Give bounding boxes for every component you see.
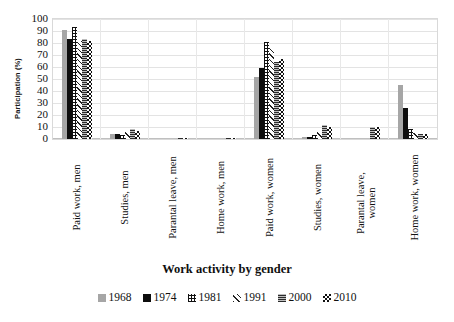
legend-item-2000[interactable]: 2000 (278, 292, 312, 303)
legend-label: 1981 (199, 292, 222, 303)
legend-swatch-icon (143, 294, 151, 302)
x-axis-label-line1: Paid work, men (71, 164, 82, 230)
x-axis-label-line2: women (366, 153, 377, 253)
plot-area (52, 18, 438, 140)
legend-item-1981[interactable]: 1981 (188, 292, 222, 303)
bar-cluster (62, 19, 92, 139)
x-axis-label-line1: Parantal leave, (355, 172, 366, 234)
legend-label: 2010 (334, 292, 357, 303)
chart-legend: 196819741981199120002010 (0, 292, 454, 303)
x-axis-label-4: Paid work, women (264, 158, 275, 237)
legend-label: 1974 (154, 292, 177, 303)
y-axis-tick-30: 30 (37, 97, 48, 108)
x-axis-label-7: Home work, women (408, 154, 419, 240)
bar-cluster (254, 19, 284, 139)
y-axis-tick-80: 80 (37, 37, 48, 48)
bar-cluster (350, 19, 380, 139)
y-axis-tick-10: 10 (37, 121, 48, 132)
x-axis-label-line1: Studies, women (312, 164, 323, 231)
x-axis-title: Work activity by gender (0, 262, 454, 277)
legend-label: 1968 (109, 292, 132, 303)
y-axis-tick-0: 0 (43, 133, 49, 144)
y-axis-title: Participation (%) (10, 38, 24, 138)
bar-cluster (110, 19, 140, 139)
y-axis-title-text: Participation (%) (13, 58, 22, 119)
x-axis-label-line1: Studies, men (119, 170, 130, 224)
x-axis-label-2: Parantal leave, men (167, 156, 178, 239)
bar-cluster (158, 19, 188, 139)
y-axis-tick-40: 40 (37, 85, 48, 96)
x-axis-label-line1: Home work, women (408, 154, 419, 240)
x-axis-category-labels: Paid work, menStudies, menParantal leave… (52, 142, 438, 260)
y-axis-tick-20: 20 (37, 109, 48, 120)
x-axis-label-cell: Home work, women (390, 142, 438, 260)
bar-group (293, 19, 341, 139)
x-axis-label-cell: Studies, men (100, 142, 148, 260)
y-axis-tick-70: 70 (37, 49, 48, 60)
bar-group (389, 19, 437, 139)
x-axis-label-1: Studies, men (119, 170, 130, 224)
bar-group (149, 19, 197, 139)
x-axis-label-cell: Paid work, women (245, 142, 293, 260)
bar-group (197, 19, 245, 139)
y-axis-tick-90: 90 (37, 25, 48, 36)
bar-2010-3[interactable] (231, 138, 236, 139)
legend-item-2010[interactable]: 2010 (323, 292, 357, 303)
legend-swatch-icon (278, 294, 286, 302)
x-axis-label-3: Home work, men (215, 161, 226, 234)
y-axis-tick-60: 60 (37, 61, 48, 72)
bar-group (245, 19, 293, 139)
bar-chart: Participation (%) 1009080706050403020100… (0, 0, 454, 322)
y-axis-tick-50: 50 (37, 73, 48, 84)
x-axis-label-cell: Studies, women (293, 142, 341, 260)
bar-2010-5[interactable] (327, 127, 332, 139)
x-axis-label-5: Studies, women (312, 164, 323, 231)
x-axis-label-cell: Paid work, men (52, 142, 100, 260)
legend-swatch-icon (233, 294, 241, 302)
bar-2010-1[interactable] (135, 131, 140, 139)
legend-item-1974[interactable]: 1974 (143, 292, 177, 303)
legend-swatch-icon (323, 294, 331, 302)
bar-groups (53, 19, 437, 139)
bar-2010-4[interactable] (279, 59, 284, 139)
bar-2010-6[interactable] (375, 127, 380, 139)
x-axis-label-6: Parantal leave,women (355, 153, 377, 253)
legend-swatch-icon (98, 294, 106, 302)
x-axis-label-line1: Parantal leave, men (167, 156, 178, 239)
y-axis-tick-100: 100 (32, 13, 49, 24)
y-axis-tick-labels: 1009080706050403020100 (26, 14, 50, 140)
legend-label: 2000 (289, 292, 312, 303)
bar-2010-7[interactable] (423, 134, 428, 139)
bar-group (53, 19, 101, 139)
x-axis-label-cell: Parantal leave,women (342, 142, 390, 260)
bar-cluster (206, 19, 236, 139)
x-axis-label-cell: Home work, men (197, 142, 245, 260)
legend-item-1968[interactable]: 1968 (98, 292, 132, 303)
bar-group (101, 19, 149, 139)
legend-item-1991[interactable]: 1991 (233, 292, 267, 303)
bar-2010-0[interactable] (87, 41, 92, 139)
legend-label: 1991 (244, 292, 267, 303)
bar-cluster (398, 19, 428, 139)
bar-2010-2[interactable] (183, 138, 188, 139)
bar-cluster (302, 19, 332, 139)
bar-group (341, 19, 389, 139)
x-axis-label-line1: Paid work, women (264, 158, 275, 237)
x-axis-label-line1: Home work, men (215, 161, 226, 234)
x-axis-label-0: Paid work, men (71, 164, 82, 230)
x-axis-label-cell: Parantal leave, men (149, 142, 197, 260)
legend-swatch-icon (188, 294, 196, 302)
